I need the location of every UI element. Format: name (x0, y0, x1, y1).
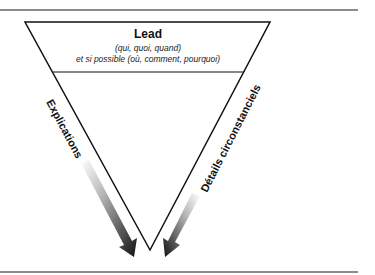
right-label: Détails circonstanciels (198, 82, 263, 194)
lead-line-1: (qui, quoi, quand) (115, 43, 181, 53)
inverted-pyramid-diagram: Lead (qui, quoi, quand) et si possible (… (0, 0, 375, 275)
lead-title: Lead (134, 27, 162, 41)
lead-line-2: et si possible (où, comment, pourquoi) (76, 54, 220, 64)
left-label: Explications (44, 97, 85, 160)
right-arrow-icon (163, 193, 200, 257)
